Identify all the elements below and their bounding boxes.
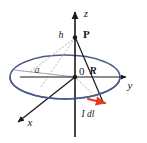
height-label: h xyxy=(59,29,64,40)
origin-label: 0 xyxy=(79,65,85,77)
current-loop-figure: z y x h P 0 a R I dl xyxy=(0,0,147,143)
y-axis-label: y xyxy=(127,79,133,91)
z-axis-label: z xyxy=(83,7,89,19)
radius-segment-line xyxy=(14,70,75,77)
current-loop-front-arc xyxy=(10,77,120,99)
field-point-marker xyxy=(73,35,77,39)
separation-vector-label: R xyxy=(88,64,96,76)
radius-label: a xyxy=(35,64,40,75)
figure-canvas: z y x h P 0 a R I dl xyxy=(0,0,147,143)
x-axis-label: x xyxy=(27,116,33,128)
field-point-label: P xyxy=(83,28,90,40)
origin-marker xyxy=(73,75,77,79)
current-element-label: I dl xyxy=(81,109,95,119)
